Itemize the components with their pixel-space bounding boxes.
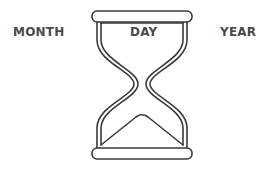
day-label: DAY	[130, 25, 157, 39]
month-label: MONTH	[13, 25, 64, 39]
year-label: YEAR	[220, 25, 256, 39]
